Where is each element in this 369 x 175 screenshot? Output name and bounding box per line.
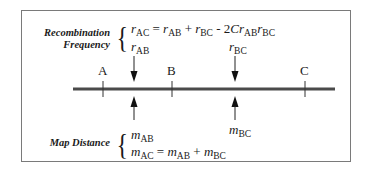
var-m: m: [167, 144, 176, 159]
sub-ab: AB: [140, 134, 153, 144]
minus-two: - 2: [216, 21, 230, 36]
arrow-up-bc-icon: [232, 96, 239, 120]
recombination-label-line1: Recombination: [24, 27, 110, 39]
sub-ab: AB: [168, 28, 181, 38]
var-m: m: [131, 144, 140, 159]
recombination-brace: {: [116, 22, 128, 52]
sub-ac: AC: [136, 28, 149, 38]
equals-sign: =: [153, 21, 160, 36]
arrow-up-ab-icon: [131, 96, 138, 120]
sub-ac: AC: [140, 151, 153, 161]
plus-sign: +: [193, 144, 200, 159]
interval-label-m-bc: mBC: [229, 123, 251, 141]
map-distance-brace: {: [116, 129, 128, 159]
interval-label-r-ab: rAB: [131, 40, 149, 58]
recombination-label-line2: Frequency: [24, 39, 110, 51]
sub-bc: BC: [213, 151, 226, 161]
interval-label-r-bc: rBC: [229, 40, 247, 58]
sub-ab: AB: [136, 46, 149, 56]
var-m: m: [204, 144, 213, 159]
map-distance-label: Map Distance: [24, 137, 110, 149]
arrow-down-ab-icon: [131, 56, 138, 82]
locus-label-b: B: [167, 63, 176, 79]
sub-bc: BC: [238, 129, 251, 139]
sub-bc: BC: [200, 28, 213, 38]
locus-label-a: A: [98, 63, 107, 79]
sub-ab: AB: [177, 151, 190, 161]
var-c: C: [230, 21, 239, 36]
sub-bc: BC: [262, 28, 275, 38]
recombination-frequency-label: Recombination Frequency: [24, 27, 110, 51]
sub-ab: AB: [244, 28, 257, 38]
var-m: m: [131, 127, 140, 142]
sub-bc: BC: [234, 46, 247, 56]
var-m: m: [229, 122, 238, 137]
plus-sign: +: [185, 21, 192, 36]
arrow-down-bc-icon: [232, 56, 239, 82]
map-distance-formula: mAC = mAB + mBC: [131, 145, 226, 163]
recombination-formula: rAC = rAB + rBC - 2CrABrBC: [131, 22, 275, 40]
locus-label-c: C: [300, 63, 309, 79]
equals-sign: =: [157, 144, 164, 159]
